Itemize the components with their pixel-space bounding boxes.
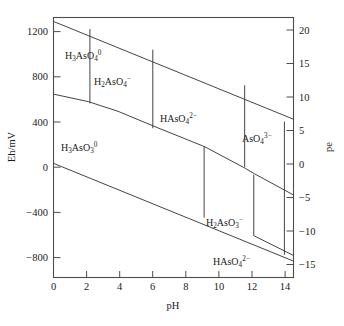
pourbaix-diagram-figure: 1200 800 400 0 −400 −800 Eh/mV 20 15 10 … <box>0 0 344 326</box>
ph-ticklabel-14: 14 <box>280 281 291 292</box>
ph-ticklabel-4: 4 <box>117 281 123 292</box>
eh-ticklabel-minus800: −800 <box>26 252 48 263</box>
eh-ticklabel-1200: 1200 <box>27 26 48 37</box>
pourbaix-chart-svg: 1200 800 400 0 −400 −800 Eh/mV 20 15 10 … <box>0 0 344 326</box>
eh-ticklabel-400: 400 <box>32 117 48 128</box>
ph-ticklabel-8: 8 <box>183 281 188 292</box>
pe-ticklabel-minus10: −10 <box>299 226 315 237</box>
ph-axis-title: pH <box>167 300 180 311</box>
eh-ticklabel-800: 800 <box>32 71 48 82</box>
pe-ticklabel-10: 10 <box>299 92 310 103</box>
ph-ticklabel-6: 6 <box>150 281 155 292</box>
pe-ticklabel-20: 20 <box>299 25 310 36</box>
pe-axis-title: pe <box>323 142 334 152</box>
pe-ticklabel-minus15: −15 <box>299 259 315 270</box>
eh-ticklabel-minus400: −400 <box>26 207 48 218</box>
ph-ticklabel-10: 10 <box>214 281 225 292</box>
pe-ticklabel-0: 0 <box>299 159 304 170</box>
pe-ticklabel-5: 5 <box>299 125 304 136</box>
ph-ticklabel-12: 12 <box>247 281 258 292</box>
eh-axis-title: Eh/mV <box>6 131 17 162</box>
ph-ticklabel-2: 2 <box>84 281 89 292</box>
pe-ticklabel-minus5: −5 <box>299 192 310 203</box>
pe-ticklabel-15: 15 <box>299 58 310 69</box>
ph-ticklabel-0: 0 <box>51 281 56 292</box>
eh-ticklabel-0: 0 <box>43 162 48 173</box>
